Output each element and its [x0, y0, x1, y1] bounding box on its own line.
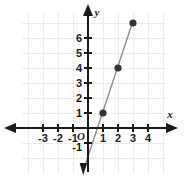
x-axis-arrow-left: [4, 123, 16, 133]
grid-lines: [22, 13, 166, 173]
x-tick-label-4: 4: [145, 132, 152, 144]
y-tick-label-4: 4: [76, 62, 83, 74]
y-tick-label-neg1: -1: [72, 141, 82, 153]
x-tick-label-1: 1: [100, 132, 106, 144]
y-axis-label: y: [93, 6, 100, 18]
x-tick-label-3: 3: [130, 132, 136, 144]
y-tick-label-5: 5: [76, 47, 82, 59]
x-axis-label: x: [166, 108, 173, 120]
graph-canvas: -3 -2 -1 1 2 3 4 -1 1 2 3 4 5 6 O x y: [0, 0, 184, 176]
line-arrow-down: [80, 163, 88, 175]
x-tick-label-2: 2: [115, 132, 121, 144]
y-axis-arrow-up: [83, 4, 93, 16]
x-axis-arrow-right: [166, 123, 178, 133]
x-tick-label-neg3: -3: [38, 132, 48, 144]
y-tick-label-6: 6: [76, 32, 82, 44]
y-tick-label-1: 1: [76, 107, 82, 119]
data-point: [129, 19, 136, 26]
data-point: [99, 109, 106, 116]
coordinate-graph: -3 -2 -1 1 2 3 4 -1 1 2 3 4 5 6 O x y: [0, 0, 184, 176]
y-tick-label-3: 3: [76, 77, 82, 89]
origin-label: O: [77, 130, 85, 142]
y-tick-label-2: 2: [76, 92, 82, 104]
data-point: [114, 64, 121, 71]
x-tick-label-neg2: -2: [53, 132, 63, 144]
